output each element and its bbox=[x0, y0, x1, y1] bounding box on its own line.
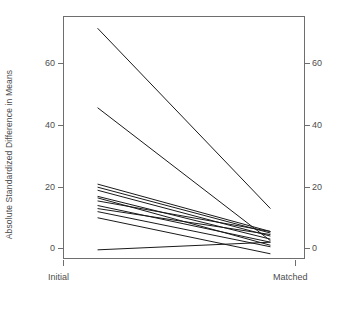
y-axis-title: Absolute Standardized Difference in Mean… bbox=[0, 0, 18, 309]
series-line bbox=[98, 184, 271, 231]
series-line bbox=[98, 201, 271, 232]
series-layer bbox=[63, 16, 305, 259]
series-line bbox=[98, 209, 271, 235]
y-tick-label-left-20: 20 bbox=[25, 182, 55, 192]
chart-canvas: Absolute Standardized Difference in Mean… bbox=[0, 0, 346, 309]
y-tick-mark-right-60 bbox=[305, 63, 310, 64]
x-tick-label-initial: Initial bbox=[48, 272, 69, 283]
y-tick-label-right-60: 60 bbox=[312, 58, 342, 68]
y-tick-mark-right-0 bbox=[305, 248, 310, 249]
series-line bbox=[98, 28, 271, 208]
y-tick-label-right-0: 0 bbox=[312, 243, 342, 253]
line-series-svg bbox=[63, 16, 305, 259]
y-tick-label-left-40: 40 bbox=[25, 120, 55, 130]
x-tick-label-matched: Matched bbox=[273, 272, 308, 283]
series-line bbox=[98, 108, 271, 241]
series-line bbox=[98, 187, 271, 233]
y-tick-label-left-0: 0 bbox=[25, 243, 55, 253]
y-tick-mark-right-40 bbox=[305, 125, 310, 126]
series-line bbox=[98, 206, 271, 243]
y-tick-label-right-40: 40 bbox=[312, 120, 342, 130]
x-tick-mark-initial bbox=[63, 260, 64, 266]
y-tick-mark-right-20 bbox=[305, 187, 310, 188]
y-tick-label-left-60: 60 bbox=[25, 58, 55, 68]
series-line bbox=[98, 196, 271, 239]
y-tick-label-right-20: 20 bbox=[312, 182, 342, 192]
x-tick-mark-matched bbox=[295, 260, 296, 266]
